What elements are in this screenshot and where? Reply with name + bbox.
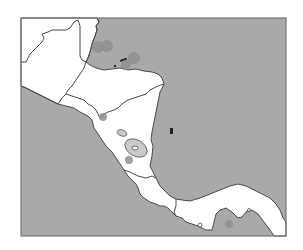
central-america-map xyxy=(0,0,303,250)
pearl-islands xyxy=(248,209,251,212)
marker-panama-gulf[interactable] xyxy=(225,220,233,228)
cay-islet xyxy=(114,65,116,67)
corn-islands xyxy=(170,128,173,134)
marker-nicaragua-pacific[interactable] xyxy=(125,156,133,164)
marker-gulf-of-fonseca[interactable] xyxy=(99,113,107,121)
marker-honduras-north-coast[interactable] xyxy=(121,60,131,70)
marker-belize-coast-2[interactable] xyxy=(101,40,113,52)
coiba-island xyxy=(198,223,202,227)
island-ometepe xyxy=(132,146,138,150)
